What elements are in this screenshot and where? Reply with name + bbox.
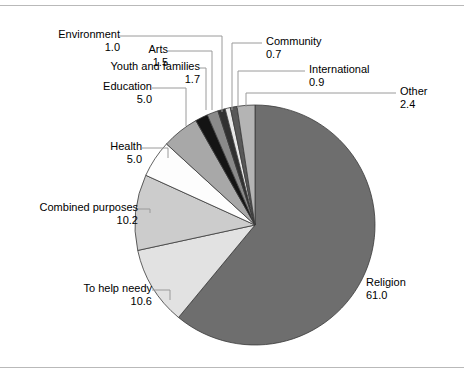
leader-line-education bbox=[152, 88, 186, 126]
slice-label-other-value: 2.4 bbox=[400, 98, 460, 111]
slice-label-combined-purposes: Combined purposes 10.2 bbox=[8, 201, 138, 226]
slice-label-international-value: 0.9 bbox=[309, 76, 409, 89]
slice-label-community: Community 0.7 bbox=[266, 35, 356, 60]
leader-line-international bbox=[238, 71, 305, 108]
slice-label-to-help-needy-text: To help needy bbox=[42, 282, 152, 295]
slice-label-education-value: 5.0 bbox=[62, 93, 152, 106]
slice-label-religion-value: 61.0 bbox=[366, 289, 436, 302]
slice-label-arts-text: Arts bbox=[98, 43, 168, 56]
slice-label-community-text: Community bbox=[266, 35, 356, 48]
slice-label-other: Other 2.4 bbox=[400, 85, 460, 110]
pie-chart-svg bbox=[0, 0, 464, 376]
leader-line-other bbox=[246, 93, 396, 107]
slice-label-international: International 0.9 bbox=[309, 63, 409, 88]
slice-label-education-text: Education bbox=[62, 80, 152, 93]
slice-label-health: Health 5.0 bbox=[72, 140, 142, 165]
slice-label-community-value: 0.7 bbox=[266, 48, 356, 61]
slice-label-to-help-needy-value: 10.6 bbox=[42, 295, 152, 308]
leader-line-community bbox=[232, 43, 262, 110]
slice-label-religion: Religion 61.0 bbox=[366, 276, 436, 301]
slice-label-environment-text: Environment bbox=[18, 28, 120, 41]
slice-label-international-text: International bbox=[309, 63, 409, 76]
slice-label-combined-purposes-text: Combined purposes bbox=[8, 201, 138, 214]
slice-label-to-help-needy: To help needy 10.6 bbox=[42, 282, 152, 307]
pie-slices bbox=[135, 105, 375, 345]
slice-label-other-text: Other bbox=[400, 85, 460, 98]
pie-chart bbox=[0, 0, 464, 376]
slice-label-health-text: Health bbox=[72, 140, 142, 153]
slice-label-combined-purposes-value: 10.2 bbox=[8, 214, 138, 227]
slice-label-youth-and-families-text: Youth and families bbox=[70, 60, 200, 73]
slice-label-health-value: 5.0 bbox=[72, 153, 142, 166]
slice-label-education: Education 5.0 bbox=[62, 80, 152, 105]
leader-line-youth-and-families bbox=[200, 68, 206, 110]
slice-label-religion-text: Religion bbox=[366, 276, 436, 289]
